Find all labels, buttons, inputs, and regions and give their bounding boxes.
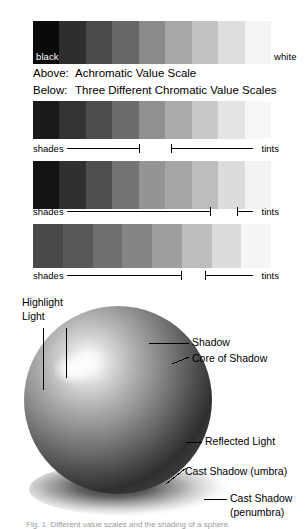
value-swatch-3 <box>86 161 112 209</box>
value-swatch-1 <box>33 161 59 209</box>
label-core-of-shadow: Core of Shadow <box>192 352 267 365</box>
value-swatch-7 <box>192 101 218 139</box>
achromatic-value-scale-bar <box>33 21 271 64</box>
value-swatch-4 <box>112 21 138 64</box>
chromatic-value-scale-bar-3 <box>33 224 271 268</box>
label-reflected-light: Reflected Light <box>205 435 275 448</box>
value-swatch-5 <box>139 21 165 64</box>
value-scale-label-white: white <box>274 52 297 62</box>
value-swatch-2 <box>63 224 93 268</box>
value-swatch-5 <box>139 101 165 139</box>
label-highlight: Highlight <box>22 296 63 309</box>
tints-rule <box>205 275 253 276</box>
value-swatch-8 <box>218 161 244 209</box>
value-swatch-3 <box>86 21 112 64</box>
figure-bottom-caption: Fig. 1. Different value scales and the s… <box>26 520 296 529</box>
value-swatch-9 <box>245 101 271 139</box>
caption-text-below: Three Different Chromatic Value Scales <box>75 84 277 96</box>
value-swatch-4 <box>122 224 152 268</box>
sphere-highlight <box>52 352 94 386</box>
shades-end-cap <box>139 144 140 153</box>
tints-rule <box>171 148 253 149</box>
shades-rule <box>67 275 181 276</box>
value-scale-caption-block: Above:Achromatic Value Scale Below:Three… <box>33 65 298 99</box>
value-swatch-6 <box>165 101 191 139</box>
label-shadow: Shadow <box>192 336 230 349</box>
caption-key-above: Above: <box>33 65 75 82</box>
label-light: Light <box>22 310 45 323</box>
value-scale-label-black: black <box>36 52 59 62</box>
tints-rule <box>237 211 253 212</box>
value-swatch-1 <box>33 224 63 268</box>
shades-tints-row-3: shades tints <box>33 269 279 282</box>
sphere-diagram: Highlight Light Shadow Core of Shadow Re… <box>0 292 305 528</box>
chromatic-value-scale-bar-1 <box>33 101 271 139</box>
shades-rule <box>67 148 139 149</box>
tints-label-2: tints <box>262 205 279 218</box>
value-swatch-5 <box>152 224 182 268</box>
value-swatch-2 <box>59 161 85 209</box>
label-cast-shadow-penumbra-line2: (penumbra) <box>230 506 284 519</box>
sphere-body <box>24 306 212 494</box>
value-swatch-3 <box>86 101 112 139</box>
value-swatch-9 <box>245 161 271 209</box>
value-swatch-7 <box>192 161 218 209</box>
value-swatch-5 <box>139 161 165 209</box>
caption-line-below: Below:Three Different Chromatic Value Sc… <box>33 82 298 99</box>
value-swatch-6 <box>165 161 191 209</box>
value-swatch-9 <box>245 21 271 64</box>
value-swatch-8 <box>218 21 244 64</box>
shades-rule <box>67 211 210 212</box>
value-swatch-8 <box>241 224 271 268</box>
tints-label-3: tints <box>262 269 279 282</box>
tints-label-1: tints <box>262 142 279 155</box>
value-swatch-8 <box>218 101 244 139</box>
value-swatch-1 <box>33 101 59 139</box>
shades-end-cap <box>181 271 182 280</box>
value-swatch-6 <box>165 21 191 64</box>
value-swatch-3 <box>93 224 123 268</box>
value-swatch-4 <box>112 161 138 209</box>
value-swatch-7 <box>192 21 218 64</box>
label-cast-shadow-umbra: Cast Shadow (umbra) <box>185 465 287 478</box>
shades-tints-row-1: shades tints <box>33 142 279 155</box>
shades-label-1: shades <box>33 142 64 155</box>
shades-label-2: shades <box>33 205 64 218</box>
caption-line-above: Above:Achromatic Value Scale <box>33 65 298 82</box>
chromatic-value-scale-bar-2 <box>33 161 271 209</box>
shades-end-cap <box>210 207 211 216</box>
value-swatch-7 <box>212 224 242 268</box>
value-swatch-6 <box>182 224 212 268</box>
shades-tints-row-2: shades tints <box>33 205 279 218</box>
value-swatch-2 <box>59 101 85 139</box>
caption-key-below: Below: <box>33 82 75 99</box>
label-cast-shadow-penumbra-line1: Cast Shadow <box>230 492 292 505</box>
shades-label-3: shades <box>33 269 64 282</box>
value-swatch-4 <box>112 101 138 139</box>
value-swatch-2 <box>59 21 85 64</box>
caption-text-above: Achromatic Value Scale <box>75 67 196 79</box>
